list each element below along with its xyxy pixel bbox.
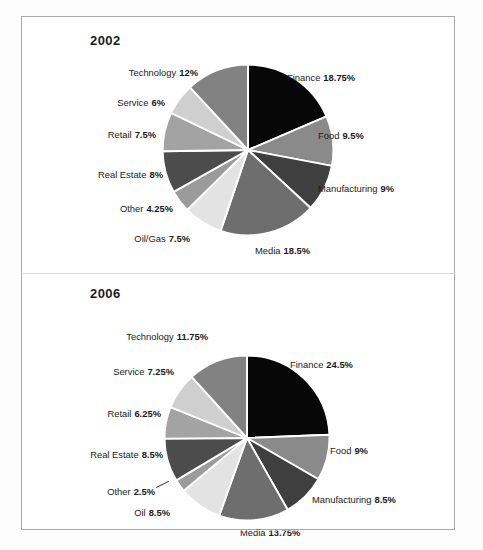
label-other-2002: Other4.25% xyxy=(22,203,173,214)
label-service-2002: Service6% xyxy=(22,97,165,108)
label-oil-2006: Oil8.5% xyxy=(22,507,170,518)
label-technology-2002: Technology12% xyxy=(22,67,198,78)
label-finance-2002: Finance18.75% xyxy=(287,72,355,83)
pie-svg-2002 xyxy=(160,62,336,238)
page-frame: 2002 Finance18.75% Food9.5% Manufacturin… xyxy=(21,16,455,530)
scanned-page: 2002 Finance18.75% Food9.5% Manufacturin… xyxy=(0,0,483,550)
label-retail-2006: Retail6.25% xyxy=(22,408,161,419)
chart-panel-2006: 2006 Finance24.5% Food9% Manufacturing8.… xyxy=(22,273,456,530)
label-technology-2006: Technology11.75% xyxy=(22,331,208,342)
label-finance-2006: Finance24.5% xyxy=(290,359,353,370)
label-food-2006: Food9% xyxy=(330,445,368,456)
label-retail-2002: Retail7.5% xyxy=(22,129,156,140)
label-media-2006: Media13.75% xyxy=(240,527,300,538)
pie-chart-2006 xyxy=(162,353,332,523)
pie-chart-2002 xyxy=(160,62,336,238)
label-manufacturing-2002: Manufacturing9% xyxy=(318,183,394,194)
label-media-2002: Media18.5% xyxy=(255,245,310,256)
label-other-2006: Other2.5% xyxy=(22,486,155,497)
chart-panel-2002: 2002 Finance18.75% Food9.5% Manufacturin… xyxy=(22,17,456,273)
label-manufacturing-2006: Manufacturing8.5% xyxy=(312,494,396,505)
label-service-2006: Service7.25% xyxy=(22,366,174,377)
pie-svg-2006 xyxy=(162,353,332,523)
chart-title-2002: 2002 xyxy=(90,33,121,48)
label-real-estate-2002: Real Estate8% xyxy=(22,169,163,180)
label-oil-gas-2002: Oil/Gas7.5% xyxy=(22,233,190,244)
label-real-estate-2006: Real Estate8.5% xyxy=(22,449,163,460)
label-food-2002: Food9.5% xyxy=(318,130,364,141)
chart-title-2006: 2006 xyxy=(90,286,121,301)
